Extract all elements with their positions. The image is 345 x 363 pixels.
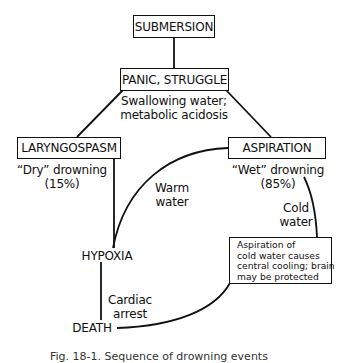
cardiac-line2: arrest	[105, 307, 155, 321]
node-submersion: SUBMERSION	[133, 15, 215, 38]
node-panic-label: PANIC, STRUGGLE	[122, 73, 227, 87]
swallowing-line1: Swallowing water;	[118, 94, 230, 108]
note-line: may be protected	[237, 272, 331, 283]
cold-line1: Cold	[276, 201, 316, 215]
cardiac-line1: Cardiac	[105, 293, 155, 307]
warm-water-label: Warm water	[152, 181, 192, 209]
node-submersion-label: SUBMERSION	[135, 20, 214, 34]
cardiac-arrest-label: Cardiac arrest	[105, 293, 155, 321]
swallowing-label: Swallowing water; metabolic acidosis	[118, 94, 230, 122]
node-laryngospasm: LARYNGOSPASM	[17, 137, 121, 159]
wet-line2: (85%)	[230, 177, 326, 191]
node-aspiration: ASPIRATION	[228, 137, 326, 159]
cold-water-note: Aspiration of cold water causes central …	[229, 237, 332, 284]
note-line: Aspiration of	[237, 240, 331, 251]
node-death: DEATH	[70, 321, 114, 335]
figure-caption: Fig. 18-1. Sequence of drowning events	[50, 350, 268, 363]
node-death-label: DEATH	[72, 321, 111, 335]
swallowing-line2: metabolic acidosis	[118, 108, 230, 122]
node-aspiration-label: ASPIRATION	[242, 141, 311, 155]
cold-line2: water	[276, 215, 316, 229]
node-hypoxia-label: HYPOXIA	[82, 249, 133, 263]
cold-water-label: Cold water	[276, 201, 316, 229]
dry-line2: (15%)	[14, 177, 110, 191]
node-hypoxia: HYPOXIA	[79, 249, 135, 263]
wet-line1: “Wet” drowning	[230, 163, 326, 177]
node-laryngospasm-label: LARYNGOSPASM	[21, 141, 117, 155]
wet-drowning-label: “Wet” drowning (85%)	[230, 163, 326, 191]
dry-drowning-label: “Dry” drowning (15%)	[14, 163, 110, 191]
dry-line1: “Dry” drowning	[14, 163, 110, 177]
warm-line1: Warm	[152, 181, 192, 195]
node-panic-struggle: PANIC, STRUGGLE	[120, 68, 229, 91]
warm-line2: water	[152, 195, 192, 209]
